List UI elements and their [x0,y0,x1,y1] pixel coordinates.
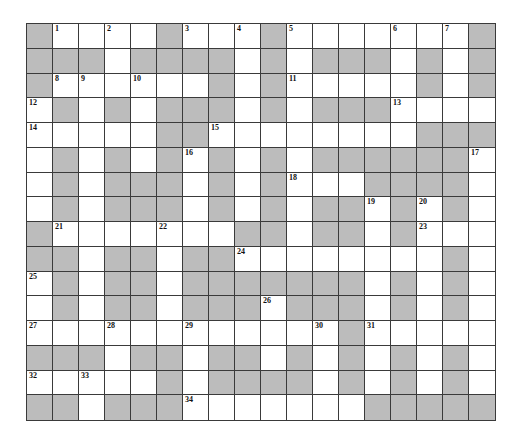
answer-cell[interactable]: 12 [27,98,53,123]
answer-cell[interactable] [339,74,365,99]
answer-cell[interactable]: 30 [313,321,339,346]
answer-cell[interactable] [79,98,105,123]
answer-cell[interactable] [287,123,313,148]
answer-cell[interactable]: 8 [53,74,79,99]
answer-cell[interactable] [313,371,339,396]
answer-cell[interactable] [235,49,261,74]
answer-cell[interactable]: 28 [105,321,131,346]
answer-cell[interactable]: 29 [183,321,209,346]
answer-cell[interactable] [79,24,105,49]
answer-cell[interactable]: 17 [469,148,495,173]
answer-cell[interactable] [235,123,261,148]
answer-cell[interactable] [79,148,105,173]
answer-cell[interactable] [235,321,261,346]
answer-cell[interactable] [417,296,443,321]
answer-cell[interactable] [183,371,209,396]
answer-cell[interactable]: 4 [235,24,261,49]
answer-cell[interactable] [209,222,235,247]
answer-cell[interactable] [261,247,287,272]
answer-cell[interactable] [157,74,183,99]
answer-cell[interactable]: 15 [209,123,235,148]
answer-cell[interactable] [365,247,391,272]
answer-cell[interactable]: 10 [131,74,157,99]
answer-cell[interactable] [105,49,131,74]
answer-cell[interactable] [417,247,443,272]
answer-cell[interactable] [209,24,235,49]
answer-cell[interactable] [261,321,287,346]
answer-cell[interactable] [157,272,183,297]
answer-cell[interactable] [235,148,261,173]
answer-cell[interactable] [417,24,443,49]
answer-cell[interactable] [443,49,469,74]
answer-cell[interactable] [53,321,79,346]
answer-cell[interactable]: 20 [417,197,443,222]
answer-cell[interactable]: 14 [27,123,53,148]
answer-cell[interactable] [27,296,53,321]
answer-cell[interactable] [443,321,469,346]
answer-cell[interactable] [131,321,157,346]
answer-cell[interactable] [287,98,313,123]
answer-cell[interactable] [131,148,157,173]
answer-cell[interactable] [287,222,313,247]
answer-cell[interactable] [313,74,339,99]
answer-cell[interactable] [365,272,391,297]
answer-cell[interactable] [417,272,443,297]
answer-cell[interactable] [157,321,183,346]
answer-cell[interactable]: 22 [157,222,183,247]
answer-cell[interactable] [313,173,339,198]
answer-cell[interactable] [53,371,79,396]
answer-cell[interactable] [79,222,105,247]
answer-cell[interactable] [365,222,391,247]
answer-cell[interactable] [53,123,79,148]
answer-cell[interactable] [261,346,287,371]
answer-cell[interactable]: 13 [391,98,417,123]
answer-cell[interactable] [313,395,339,420]
answer-cell[interactable]: 3 [183,24,209,49]
answer-cell[interactable] [469,197,495,222]
answer-cell[interactable] [261,123,287,148]
answer-cell[interactable] [313,123,339,148]
answer-cell[interactable] [79,247,105,272]
answer-cell[interactable] [79,173,105,198]
answer-cell[interactable] [183,173,209,198]
answer-cell[interactable] [209,395,235,420]
answer-cell[interactable] [235,395,261,420]
answer-cell[interactable]: 7 [443,24,469,49]
answer-cell[interactable] [391,49,417,74]
answer-cell[interactable] [417,321,443,346]
answer-cell[interactable] [79,123,105,148]
answer-cell[interactable] [313,24,339,49]
answer-cell[interactable]: 21 [53,222,79,247]
answer-cell[interactable]: 25 [27,272,53,297]
answer-cell[interactable] [235,197,261,222]
answer-cell[interactable] [417,371,443,396]
answer-cell[interactable] [313,247,339,272]
answer-cell[interactable] [365,371,391,396]
answer-cell[interactable]: 32 [27,371,53,396]
answer-cell[interactable] [469,346,495,371]
answer-cell[interactable] [105,123,131,148]
answer-cell[interactable]: 26 [261,296,287,321]
answer-cell[interactable] [157,247,183,272]
answer-cell[interactable] [79,321,105,346]
answer-cell[interactable] [235,74,261,99]
answer-cell[interactable] [105,222,131,247]
answer-cell[interactable]: 19 [365,197,391,222]
answer-cell[interactable] [469,321,495,346]
answer-cell[interactable] [131,123,157,148]
answer-cell[interactable] [79,272,105,297]
answer-cell[interactable] [469,98,495,123]
answer-cell[interactable] [235,173,261,198]
answer-cell[interactable] [287,247,313,272]
answer-cell[interactable] [443,98,469,123]
answer-cell[interactable] [469,272,495,297]
answer-cell[interactable] [131,371,157,396]
answer-cell[interactable] [79,296,105,321]
answer-cell[interactable] [157,296,183,321]
answer-cell[interactable] [469,247,495,272]
answer-cell[interactable]: 33 [79,371,105,396]
answer-cell[interactable] [261,395,287,420]
answer-cell[interactable]: 23 [417,222,443,247]
answer-cell[interactable] [209,321,235,346]
answer-cell[interactable] [79,395,105,420]
